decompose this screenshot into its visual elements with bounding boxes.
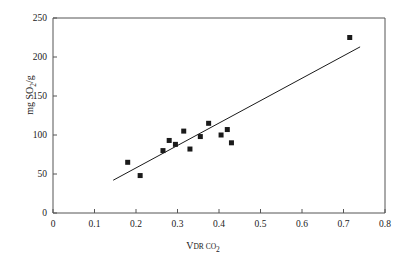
trendline	[113, 47, 360, 180]
data-point	[198, 134, 203, 139]
data-point	[229, 140, 234, 145]
data-point	[138, 173, 143, 178]
x-axis-tick-label: 0.1	[89, 219, 101, 229]
scatter-chart: mg SO2/g VDR CO2 05010015020025000.10.20…	[0, 0, 406, 265]
data-point	[173, 142, 178, 147]
data-point	[187, 147, 192, 152]
y-axis-tick-label: 50	[38, 169, 48, 179]
data-point	[225, 127, 230, 132]
y-axis-tick-label: 250	[33, 13, 47, 23]
data-point	[219, 133, 224, 138]
y-axis-tick-label: 200	[33, 52, 47, 62]
data-point	[206, 121, 211, 126]
y-axis-title-post: /g	[24, 75, 35, 83]
y-axis-tick-label: 0	[42, 208, 47, 218]
data-point	[347, 35, 352, 40]
x-axis-tick-label: 0	[51, 219, 56, 229]
x-axis-tick-label: 0.6	[296, 219, 308, 229]
x-axis-title: VDR CO2	[0, 240, 406, 254]
x-axis-title-sub2: 2	[216, 245, 220, 254]
x-axis-tick-label: 0.8	[379, 219, 391, 229]
x-axis-tick-label: 0.7	[338, 219, 350, 229]
data-point	[167, 138, 172, 143]
y-axis-tick-label: 100	[33, 130, 47, 140]
y-axis-tick-label: 150	[33, 91, 47, 101]
data-point	[160, 148, 165, 153]
x-axis-tick-label: 0.2	[130, 219, 142, 229]
x-axis-tick-label: 0.4	[213, 219, 225, 229]
x-axis-tick-label: 0.5	[255, 219, 267, 229]
x-axis-title-sub1: DR CO	[193, 242, 216, 251]
data-point	[181, 129, 186, 134]
y-axis-title-sub: 2	[29, 83, 38, 87]
data-point	[125, 160, 130, 165]
x-axis-tick-label: 0.3	[172, 219, 184, 229]
